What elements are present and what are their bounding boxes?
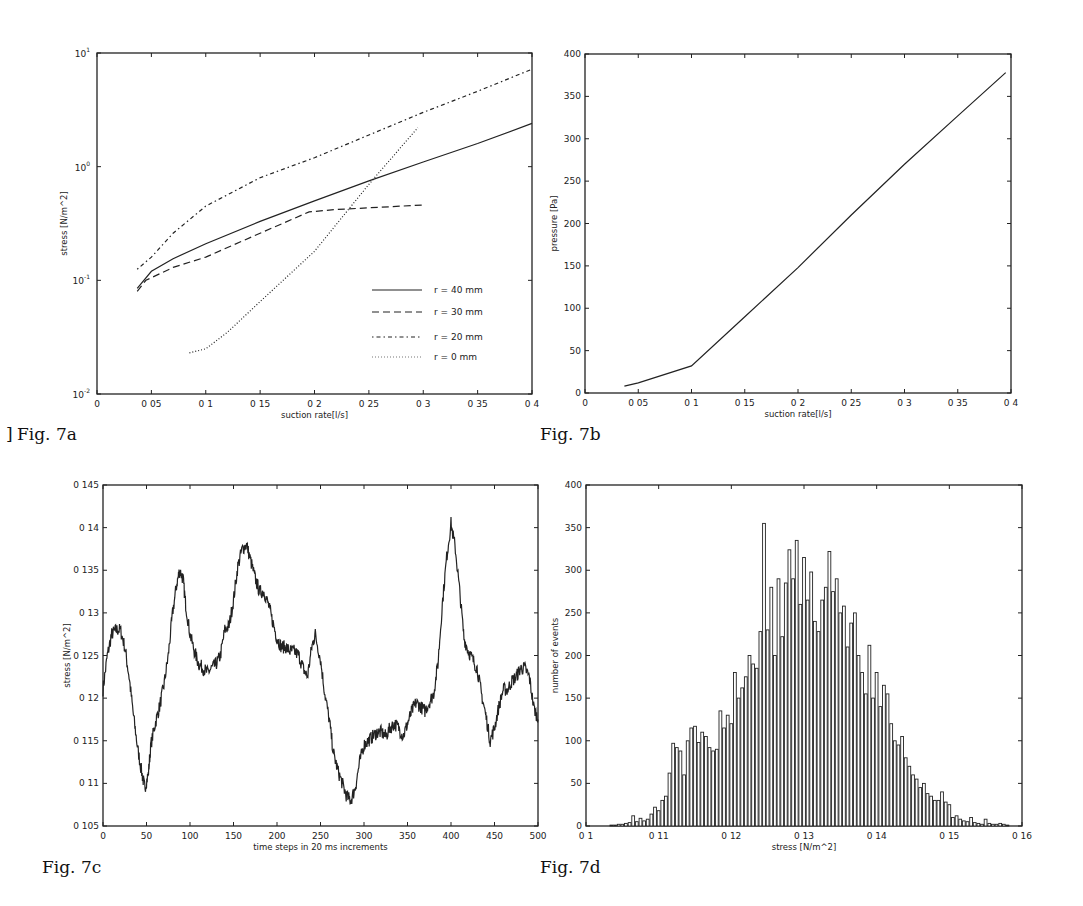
y-axis-label: pressure [Pa] (549, 195, 559, 251)
y-tick-label: 0 14 (79, 523, 99, 533)
histogram-bar (621, 824, 624, 826)
histogram-bar (774, 656, 777, 827)
histogram-bar (923, 783, 926, 826)
histogram-bar (755, 668, 758, 826)
histogram-bar (730, 724, 733, 826)
histogram-bar (806, 600, 809, 826)
histogram-bar (628, 823, 631, 826)
histogram-bar (926, 794, 929, 826)
histogram-bar (868, 645, 871, 826)
y-tick-label: 10-2 (73, 387, 91, 400)
histogram-bar (814, 621, 817, 826)
histogram-bar (788, 550, 791, 826)
y-tick-label: 150 (564, 261, 581, 271)
histogram-bar (817, 632, 820, 826)
histogram-bar (781, 637, 784, 826)
chart-fig7a-stress-vs-suction-rate: 00 050 10 150 20 250 30 350 410-210-1100… (59, 46, 539, 420)
histogram-bar (675, 748, 678, 826)
histogram-bar (777, 579, 780, 826)
x-tick-label: 0 4 (1004, 398, 1019, 408)
histogram-bar (843, 606, 846, 826)
histogram-bar (824, 587, 827, 826)
histogram-bar (635, 822, 638, 826)
y-tick-label: 0 13 (79, 608, 99, 618)
y-tick-label: 300 (564, 134, 581, 144)
histogram-bar (810, 572, 813, 826)
histogram-bar (966, 822, 969, 826)
caption-bracket: ] (6, 424, 13, 444)
histogram-bar (748, 656, 751, 827)
x-tick-label: 0 13 (794, 831, 814, 841)
x-tick-label: 0 1 (579, 831, 593, 841)
histogram-bar (697, 743, 700, 827)
x-tick-label: 0 3 (416, 399, 430, 409)
y-tick-label: 0 (576, 821, 582, 831)
histogram-bar (752, 664, 755, 826)
y-tick-label: 100 (565, 736, 582, 746)
histogram-bar (857, 656, 860, 827)
histogram-bar (948, 805, 951, 826)
histogram-bar (821, 600, 824, 826)
x-tick-label: 250 (312, 831, 329, 841)
x-tick-label: 350 (399, 831, 416, 841)
chart-fig7c-stress-time-series: 0501001502002503003504004505000 1050 110… (62, 480, 547, 852)
histogram-bar (759, 632, 762, 826)
x-axis-label: time steps in 20 ms increments (253, 842, 388, 852)
histogram-bar (734, 673, 737, 827)
y-tick-label: 0 11 (79, 778, 99, 788)
legend-entry-label: r = 40 mm (434, 285, 483, 295)
x-tick-label: 450 (486, 831, 503, 841)
y-tick-label: 200 (565, 651, 582, 661)
histogram-bar (959, 819, 962, 826)
histogram-bar (715, 749, 718, 826)
histogram-bar (944, 802, 947, 826)
histogram-bar (988, 823, 991, 826)
y-tick-label: 350 (564, 91, 581, 101)
y-tick-label: 0 135 (73, 565, 99, 575)
histogram-bar (973, 823, 976, 826)
histogram-bar (835, 579, 838, 826)
figure-canvas: 00 050 10 150 20 250 30 350 410-210-1100… (0, 0, 1083, 906)
histogram-bar (933, 800, 936, 826)
y-tick-label: 0 125 (73, 651, 99, 661)
y-tick-label: 150 (565, 693, 582, 703)
histogram-bar (879, 707, 882, 826)
y-axis-label: stress [N/m^2] (62, 623, 72, 688)
y-tick-label: 300 (565, 565, 582, 575)
x-tick-label: 300 (355, 831, 372, 841)
x-tick-label: 0 (94, 399, 100, 409)
histogram-bar (719, 711, 722, 826)
x-tick-label: 0 25 (359, 399, 379, 409)
x-tick-label: 0 11 (649, 831, 669, 841)
histogram-bar (639, 818, 642, 826)
y-tick-label: 50 (571, 778, 583, 788)
histogram-bar (792, 579, 795, 826)
legend-entry-label: r = 30 mm (434, 307, 483, 317)
histogram-bar (1006, 825, 1009, 826)
histogram-bar (875, 673, 878, 827)
histogram-bar (912, 775, 915, 826)
histogram-bar (872, 698, 875, 826)
histogram-bar (999, 823, 1002, 826)
histogram-bar (654, 807, 657, 826)
histogram-bar (839, 613, 842, 826)
histogram-bar (977, 823, 980, 826)
x-tick-label: 200 (268, 831, 285, 841)
histogram-bar (712, 751, 715, 826)
histogram-bar (614, 825, 617, 826)
stress-time-series-line (103, 517, 538, 804)
y-tick-label: 400 (565, 480, 582, 490)
histogram-bar (617, 824, 620, 826)
x-axis-label: suction rate[l/s] (281, 410, 348, 420)
histogram-bar (992, 824, 995, 826)
x-tick-label: 0 2 (791, 398, 805, 408)
caption-fig7a: Fig. 7a (17, 424, 77, 444)
y-tick-label: 0 (575, 388, 581, 398)
histogram-bar (846, 647, 849, 826)
chart-fig7d-stress-histogram: 0 10 110 120 130 140 150 160501001502002… (550, 480, 1032, 852)
histogram-bar (686, 741, 689, 826)
histogram-bar (803, 558, 806, 827)
histogram-bar (828, 552, 831, 827)
histogram-bar (694, 726, 697, 826)
histogram-bar (941, 792, 944, 826)
